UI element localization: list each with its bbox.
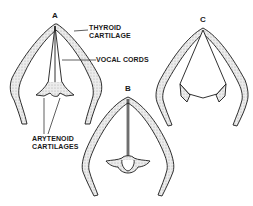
thyroid-label-line2: CARTILAGE	[89, 32, 131, 40]
panel-label-c: C	[200, 16, 206, 24]
panel-c	[156, 28, 248, 126]
arytenoid-cartilages-a	[36, 82, 74, 96]
panel-label-b: B	[125, 85, 131, 93]
arytenoid-label-line1: ARYTENOID	[32, 135, 79, 143]
arytenoid-label-line2: CARTILAGES	[32, 143, 79, 151]
vocal-cords-c	[180, 30, 226, 98]
thyroid-label-line1: THYROID	[89, 24, 131, 32]
thyroid-cartilage-b	[82, 97, 174, 196]
thyroid-cartilage-label: THYROID CARTILAGE	[89, 24, 131, 39]
vocal-cords-label: VOCAL CORDS	[96, 56, 149, 64]
arytenoid-cartilages-label: ARYTENOID CARTILAGES	[32, 135, 79, 150]
panel-b	[82, 97, 174, 196]
panel-label-a: A	[52, 12, 58, 20]
